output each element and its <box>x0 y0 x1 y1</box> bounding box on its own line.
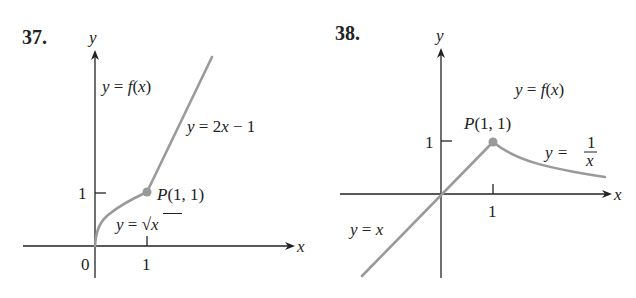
x-tick-label-1: 1 <box>488 202 497 221</box>
function-label: y = f(x) <box>100 77 151 96</box>
line-label: y = x <box>348 220 384 239</box>
x-tick-label-1: 1 <box>142 255 151 274</box>
point-label: P(1, 1) <box>463 114 511 133</box>
figure-number: 38. <box>335 22 360 44</box>
reciprocal-label-num: 1 <box>587 133 596 152</box>
y-tick-label-1: 1 <box>78 184 87 203</box>
figure-37: 37. y x 1 0 1 y = f(x) y = 2x − 1 P(1, 1… <box>22 26 305 278</box>
line-y-equals-x <box>362 142 493 276</box>
line-label: y = 2x − 1 <box>185 117 255 136</box>
function-label: y = f(x) <box>513 80 564 99</box>
x-axis-label: x <box>296 237 305 256</box>
sqrt-label: y = √x <box>114 215 159 234</box>
y-tick-label-1: 1 <box>425 133 434 152</box>
y-axis-label: y <box>434 26 444 45</box>
reciprocal-label-den: x <box>585 151 594 170</box>
figure-38: 38. y x 1 1 y = f(x) P(1, 1) y = 1 x y =… <box>335 22 622 278</box>
origin-label: 0 <box>81 255 90 274</box>
point-p <box>143 188 152 197</box>
point-label: P(1, 1) <box>156 185 204 204</box>
figures-canvas: 37. y x 1 0 1 y = f(x) y = 2x − 1 P(1, 1… <box>0 0 636 298</box>
y-axis-label: y <box>87 28 97 47</box>
x-axis-label: x <box>613 185 622 204</box>
reciprocal-label-lhs: y = <box>543 143 568 162</box>
figure-number: 37. <box>22 26 47 48</box>
point-p <box>489 138 498 147</box>
